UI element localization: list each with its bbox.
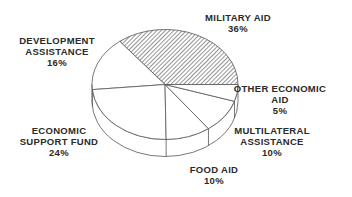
label-text: MULTILATERAL	[234, 125, 310, 136]
label-text: OTHER ECONOMIC	[234, 83, 326, 94]
label-text: MILITARY AID	[205, 12, 271, 23]
label-percent: 36%	[205, 23, 271, 34]
pie-graphic	[92, 29, 238, 156]
label-text: ECONOMIC	[20, 125, 99, 136]
label-text: FOOD AID	[190, 164, 239, 175]
label-text: ASSISTANCE	[234, 136, 310, 147]
label-economic-support-fund: ECONOMIC SUPPORT FUND 24%	[20, 125, 99, 158]
label-multilateral-assistance: MULTILATERAL ASSISTANCE 10%	[234, 125, 310, 158]
label-food-aid: FOOD AID 10%	[190, 164, 239, 186]
label-other-economic-aid: OTHER ECONOMIC AID 5%	[234, 83, 326, 116]
label-percent: 16%	[19, 57, 95, 68]
label-percent: 10%	[234, 147, 310, 158]
label-development-assistance: DEVELOPMENT ASSISTANCE 16%	[19, 35, 95, 68]
label-text: SUPPORT FUND	[20, 136, 99, 147]
label-percent: 5%	[234, 105, 326, 116]
label-percent: 24%	[20, 147, 99, 158]
label-text: ASSISTANCE	[19, 46, 95, 57]
label-military-aid: MILITARY AID 36%	[205, 12, 271, 34]
label-percent: 10%	[190, 175, 239, 186]
label-text: DEVELOPMENT	[19, 35, 95, 46]
label-text: AID	[234, 94, 326, 105]
